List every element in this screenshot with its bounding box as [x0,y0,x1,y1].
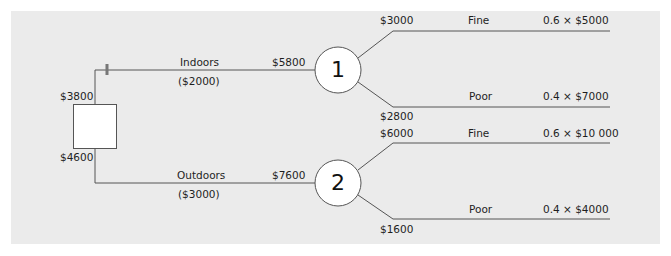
outdoors-label: Outdoors [177,169,225,181]
node2-fine-calc: 0.6 × $10 000 [543,127,619,139]
outdoors-expected-value: $7600 [272,169,305,181]
decision-lower-value: $4600 [60,151,93,163]
indoors-label: Indoors [180,56,219,68]
chance-node-2-label: 2 [315,171,361,195]
outdoors-cost: ($3000) [178,188,220,200]
node2-poor-label: Poor [469,203,492,215]
node2-poor-calc: 0.4 × $4000 [543,203,609,215]
node1-fine-label: Fine [468,14,489,26]
decision-node [73,104,117,149]
node1-fine-value: $3000 [380,14,413,26]
indoors-cost: ($2000) [178,75,220,87]
chance-node-1-label: 1 [315,58,361,82]
node1-poor-label: Poor [469,90,492,102]
decision-upper-value: $3800 [60,90,93,102]
node2-fine-line [358,143,610,170]
pruned-branch-mark [106,64,109,75]
indoors-expected-value: $5800 [272,56,305,68]
node2-fine-value: $6000 [380,127,413,139]
node1-poor-value: $2800 [380,110,413,122]
node1-poor-calc: 0.4 × $7000 [543,90,609,102]
node1-fine-line [358,31,610,58]
node1-fine-calc: 0.6 × $5000 [543,14,609,26]
node2-poor-value: $1600 [380,223,413,235]
node2-fine-label: Fine [468,127,489,139]
